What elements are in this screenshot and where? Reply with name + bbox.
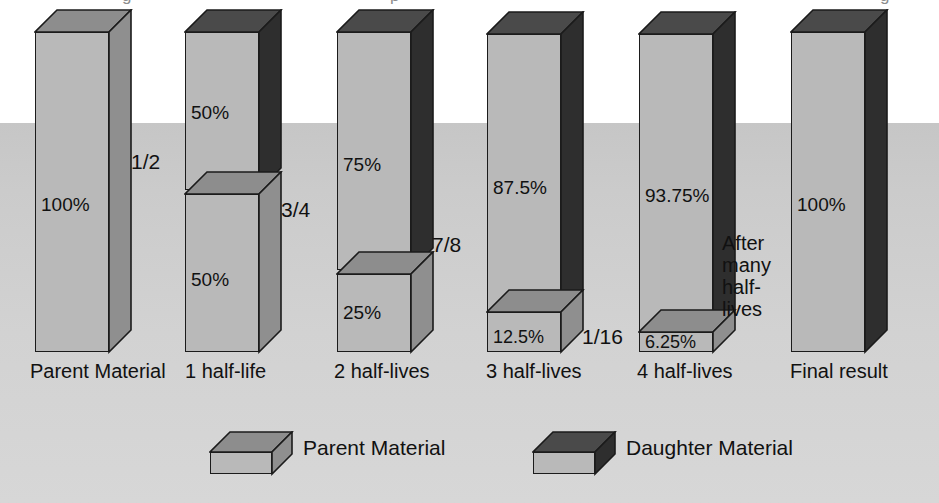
- after-many-half-lives-annotation: Aftermanyhalf-lives: [722, 232, 771, 320]
- bar-2-half-lives-parent-percent-label: 25%: [343, 303, 381, 322]
- bar-2-half-lives-daughter-percent-label: 75%: [343, 155, 381, 174]
- caption-remnant-2: g: [880, 0, 890, 6]
- legend-daughter-front-face: [533, 452, 595, 474]
- bar-4-half-lives-parent-percent-label: 6.25%: [645, 333, 696, 351]
- bar-1-half-life-daughter-percent-label: 50%: [191, 103, 229, 122]
- annotation-line-3: lives: [722, 298, 771, 320]
- bar-2-half-lives-daughter-front-face: [337, 32, 411, 270]
- bar-1-half-life-daughter-side-outline: [258, 9, 283, 192]
- bar-1-half-life-fraction-0: 3/4: [281, 198, 310, 222]
- legend-parent-label: Parent Material: [303, 436, 445, 460]
- annotation-line-2: half-: [722, 276, 771, 298]
- bar-2-half-lives-parent-side-outline: [410, 251, 435, 354]
- bar-3-half-lives-parent-percent-label: 12.5%: [493, 328, 544, 346]
- bar-4-half-lives-daughter-front-face: [639, 34, 713, 332]
- x-label-bar-3-half-lives: 3 half-lives: [486, 360, 582, 383]
- x-label-bar-1-half-life: 1 half-life: [185, 360, 266, 383]
- bar-final-result-daughter-side-outline: [864, 9, 889, 354]
- bar-parent-material-parent-front-face: [35, 32, 109, 352]
- caption-remnant-0: g: [122, 0, 132, 6]
- legend-daughter-label: Daughter Material: [626, 436, 793, 460]
- legend-parent-side-outline: [271, 431, 294, 476]
- caption-remnant-1: p: [390, 0, 400, 6]
- bar-3-half-lives-daughter-front-face: [487, 34, 561, 312]
- annotation-line-1: many: [722, 254, 771, 276]
- x-label-bar-final-result: Final result: [790, 360, 888, 383]
- figure-canvas: gpg 100%1/21/250%50%3/41/475%25%7/81/887…: [0, 0, 939, 503]
- x-label-bar-2-half-lives: 2 half-lives: [334, 360, 430, 383]
- bar-3-half-lives-daughter-percent-label: 87.5%: [493, 178, 547, 197]
- bar-parent-material-fraction-0: 1/2: [131, 150, 160, 174]
- bar-1-half-life-parent-side-outline: [258, 171, 283, 354]
- legend-daughter-side-outline: [594, 431, 617, 476]
- annotation-line-0: After: [722, 232, 771, 254]
- legend-parent-front-face: [210, 452, 272, 474]
- x-label-bar-4-half-lives: 4 half-lives: [637, 360, 733, 383]
- bar-3-half-lives-fraction-0: 1/16: [582, 325, 623, 349]
- bar-final-result-daughter-percent-label: 100%: [797, 195, 846, 214]
- bar-3-half-lives-daughter-side-outline: [560, 11, 585, 314]
- bar-parent-material-parent-side-outline: [108, 9, 133, 354]
- bar-1-half-life-parent-percent-label: 50%: [191, 270, 229, 289]
- bar-parent-material-parent-percent-label: 100%: [41, 195, 90, 214]
- cropped-caption-remnant: gpg: [0, 0, 939, 6]
- bar-final-result-daughter-front-face: [791, 32, 865, 352]
- bar-2-half-lives-fraction-0: 7/8: [432, 233, 461, 257]
- bar-4-half-lives-daughter-percent-label: 93.75%: [645, 186, 709, 205]
- x-label-bar-parent-material: Parent Material: [30, 360, 166, 383]
